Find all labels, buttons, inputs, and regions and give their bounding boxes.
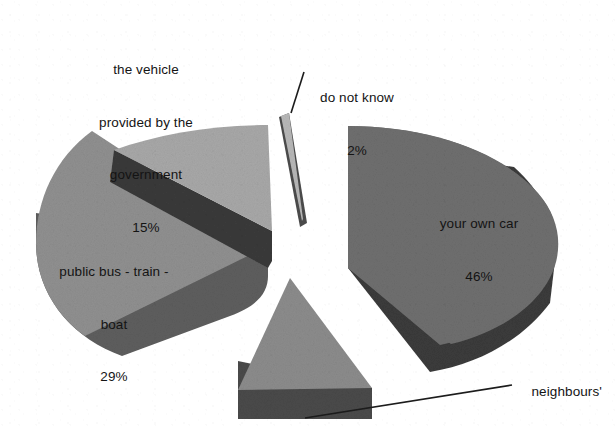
slice-label-government-line3: government [46,166,246,184]
slice-label-neighbours-line1: neighbours' [400,383,602,401]
slice-label-public-bus-value: 29% [20,368,208,386]
slice-label-your-own-car: your own car 46% [404,180,554,320]
slice-label-government-line2: provided by the [46,114,246,132]
slice-label-public-bus-line1: public bus - train - [20,263,208,281]
slice-label-neighbours-friends-car: neighbours' - friend's car 8% [400,348,602,434]
slice-label-do-not-know-value: 2% [277,142,437,160]
slice-label-government-line1: the vehicle [46,61,246,79]
slice-label-your-own-car-line1: your own car [404,215,554,233]
slice-label-do-not-know-line1: do not know [277,89,437,107]
pie-chart: the vehicle provided by the government 1… [0,0,615,434]
slice-label-public-bus: public bus - train - boat 29% [20,228,208,421]
slice-label-public-bus-line2: boat [20,316,208,334]
slice-label-your-own-car-value: 46% [404,268,554,286]
slice-label-do-not-know: do not know 2% [277,54,437,194]
